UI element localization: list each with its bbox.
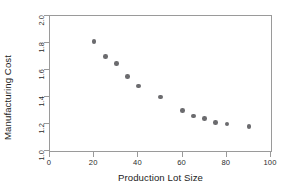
y-axis-title: Manufacturing Cost (0, 0, 16, 195)
x-axis-tick (49, 152, 50, 157)
scatter-chart-figure: 1.01.21.41.61.82.0 020406080100 Producti… (0, 0, 284, 195)
x-axis-tick-label: 40 (133, 158, 142, 167)
data-point (92, 39, 97, 44)
data-point (213, 120, 218, 125)
x-axis: 020406080100 (49, 152, 272, 157)
x-axis-tick (226, 152, 227, 157)
y-axis-tick-label: 1.0 (37, 150, 46, 161)
x-axis-tick (93, 152, 94, 157)
data-point (180, 108, 185, 113)
x-axis-tick (137, 152, 138, 157)
data-point (158, 95, 163, 100)
data-point (225, 122, 230, 127)
data-point (136, 84, 141, 89)
x-axis-tick-label: 0 (47, 158, 51, 167)
data-point (247, 124, 252, 129)
data-point (103, 54, 108, 59)
data-point (191, 114, 196, 119)
data-point (202, 116, 207, 121)
x-axis-tick (182, 152, 183, 157)
x-axis-tick-label: 80 (221, 158, 230, 167)
x-axis-tick-label: 60 (177, 158, 186, 167)
y-axis-tick-label: 1.8 (37, 42, 46, 53)
y-axis-tick-label: 1.2 (37, 123, 46, 134)
x-axis-title: Production Lot Size (49, 172, 272, 183)
data-points-layer (50, 16, 271, 151)
data-point (125, 74, 130, 79)
y-axis-tick-label: 2.0 (37, 15, 46, 26)
x-axis-tick (270, 152, 271, 157)
plot-area (49, 15, 272, 152)
data-point (114, 61, 119, 66)
y-axis-tick-label: 1.6 (37, 69, 46, 80)
x-axis-tick-label: 20 (89, 158, 98, 167)
y-axis-tick-label: 1.4 (37, 96, 46, 107)
x-axis-tick-label: 100 (264, 158, 277, 167)
